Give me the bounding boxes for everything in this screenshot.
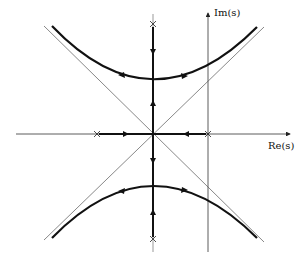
axis-locus-branches: [99, 27, 206, 237]
imaginary-axis-label: Im(s): [214, 7, 240, 18]
hyperbola-branches: [52, 26, 257, 238]
real-axis-label: Re(s): [268, 140, 294, 151]
root-locus-diagram: [0, 0, 305, 263]
